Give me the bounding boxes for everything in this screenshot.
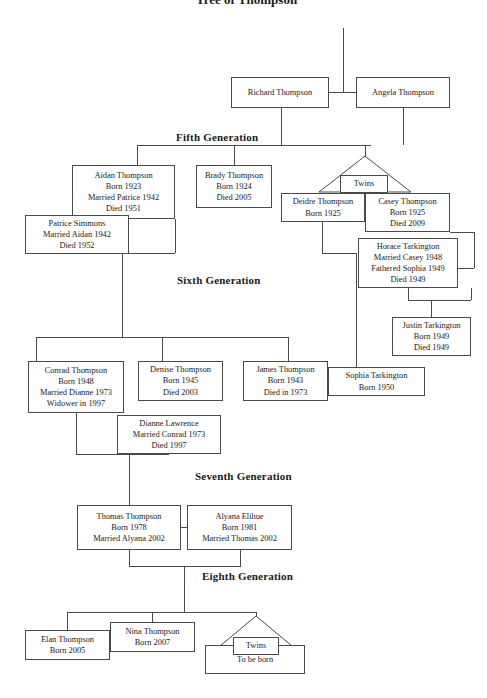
connector-james-branch: [288, 337, 289, 361]
person-detail: Born 1925: [390, 207, 426, 218]
person-detail: Born 2007: [135, 637, 171, 648]
connector-gen5-sibling-bus: [137, 145, 371, 146]
connector-top-stem: [343, 28, 344, 92]
connector-patrice-child-down: [122, 254, 123, 337]
person-name: Justin Tarkington: [402, 320, 460, 331]
person-node-nina-thompson[interactable]: Nina ThompsonBorn 2007: [110, 622, 195, 652]
person-node-justin-tarkington[interactable]: Justin TarkingtonBorn 1949Died 1949: [392, 317, 471, 356]
connector-conrad-down: [76, 413, 77, 455]
person-name: Horace Tarkington: [377, 241, 440, 252]
person-name: Twins: [246, 640, 266, 651]
person-node-twins-label-bottom[interactable]: Twins: [233, 637, 279, 655]
person-detail: Died 1949: [390, 274, 425, 285]
connector-deidre-down: [322, 222, 323, 254]
person-detail: Died 2009: [390, 218, 425, 229]
person-detail: Fathered Sophia 1949: [371, 263, 445, 274]
person-node-patrice-simmons[interactable]: Patrice SimmonsMarried Aidan 1942Died 19…: [25, 215, 129, 254]
person-name: Angela Thompson: [372, 87, 434, 98]
person-node-brady-thompson[interactable]: Brady ThompsonBorn 1924Died 2005: [196, 165, 272, 208]
connector-richard-angela-marriage: [329, 92, 356, 93]
connector-deidre-down-turn: [322, 253, 356, 254]
diagram-title: Tree of Thompson: [196, 0, 297, 8]
connector-justin-parent-right: [471, 288, 472, 300]
person-name: James Thompson: [256, 364, 314, 375]
person-name: Deidre Thompson: [293, 196, 354, 207]
connector-angela-down: [403, 108, 404, 145]
connector-gen8-sibling-bus: [67, 612, 256, 613]
person-detail: Born 1943: [268, 375, 304, 386]
connector-deidre-sophia-down: [356, 253, 357, 381]
person-node-alyana-elihue[interactable]: Alyana ElihueBorn 1981Married Thomas 200…: [187, 505, 292, 550]
person-detail: Born 1950: [359, 382, 395, 393]
person-name: Casey Thompson: [378, 196, 436, 207]
person-detail: Widower in 1997: [47, 398, 105, 409]
person-node-conrad-thompson[interactable]: Conrad ThompsonBorn 1948Married Dianne 1…: [28, 361, 124, 413]
generation-heading-eighth: Eighth Generation: [200, 570, 295, 582]
person-node-twins-label-top[interactable]: Twins: [340, 175, 388, 193]
person-name: Conrad Thompson: [45, 365, 107, 376]
person-name: To be born: [237, 654, 273, 665]
family-tree-diagram: Tree of Thompson Fifth GenerationSixth G…: [0, 0, 487, 698]
connector-richard-down: [281, 108, 282, 145]
person-detail: Married Aidan 1942: [43, 229, 111, 240]
person-detail: Born 1948: [58, 376, 94, 387]
connector-conrad-branch: [36, 337, 37, 361]
connector-aidan-child-down: [175, 219, 176, 253]
person-detail: Died 2005: [216, 192, 251, 203]
connector-casey-horace-join-low: [458, 268, 474, 269]
person-name: Nina Thompson: [125, 626, 179, 637]
person-node-dianne-lawrence[interactable]: Dianne LawrenceMarried Conrad 1973Died 1…: [117, 415, 221, 454]
person-detail: Married Dianne 1973: [40, 387, 112, 398]
connector-conrad-dianne-join: [76, 454, 169, 455]
connector-nina-branch: [152, 612, 153, 622]
person-name: Twins: [354, 178, 374, 189]
person-detail: Married Casey 1948: [374, 252, 442, 263]
person-detail: Born 1923: [106, 181, 142, 192]
person-node-james-thompson[interactable]: James ThompsonBorn 1943Died in 1973: [243, 361, 328, 401]
person-name: Thomas Thompson: [97, 511, 162, 522]
person-node-casey-thompson[interactable]: Casey ThompsonBorn 1925Died 2009: [365, 193, 450, 232]
person-node-thomas-thompson[interactable]: Thomas ThompsonBorn 1978Married Alyana 2…: [77, 505, 181, 550]
person-detail: Born 1949: [414, 331, 450, 342]
connector-elan-branch: [67, 612, 68, 630]
person-node-aidan-thompson[interactable]: Aidan ThompsonBorn 1923Married Patrice 1…: [72, 165, 175, 219]
person-node-angela-thompson[interactable]: Angela Thompson: [356, 77, 450, 108]
person-node-elan-thompson[interactable]: Elan ThompsonBorn 2005: [25, 630, 110, 660]
person-name: Aidan Thompson: [94, 170, 152, 181]
person-detail: Married Thomas 2002: [202, 533, 277, 544]
person-node-horace-tarkington[interactable]: Horace TarkingtonMarried Casey 1948Fathe…: [358, 238, 458, 288]
generation-heading-sixth: Sixth Generation: [175, 274, 263, 286]
person-detail: Born 2005: [50, 645, 86, 656]
person-node-sophia-tarkington[interactable]: Sophia TarkingtonBorn 1950: [328, 367, 425, 396]
generation-heading-seventh: Seventh Generation: [193, 470, 294, 482]
connector-aidan-patrice-join: [122, 253, 175, 254]
person-detail: Died in 1973: [264, 387, 308, 398]
person-name: Richard Thompson: [248, 87, 312, 98]
person-detail: Born 1945: [163, 375, 199, 386]
connector-aidan-stem: [137, 145, 138, 165]
person-detail: Married Conrad 1973: [133, 429, 206, 440]
person-node-denise-thompson[interactable]: Denise ThompsonBorn 1945Died 2003: [138, 361, 223, 401]
connector-casey-horace-join: [450, 232, 474, 233]
person-detail: Died 1951: [106, 203, 141, 214]
person-node-deidre-thompson[interactable]: Deidre ThompsonBorn 1925: [281, 193, 365, 222]
person-detail: Born 1981: [222, 522, 258, 533]
person-detail: Born 1978: [111, 522, 147, 533]
connector-alyana-down: [240, 550, 241, 567]
person-name: Sophia Tarkington: [346, 370, 408, 381]
person-name: Patrice Simmons: [49, 218, 106, 229]
person-name: Denise Thompson: [150, 364, 211, 375]
connector-gen7-stem: [129, 454, 130, 505]
person-detail: Married Patrice 1942: [88, 192, 159, 203]
person-detail: Born 1925: [305, 208, 341, 219]
person-detail: Died 1997: [151, 440, 186, 451]
connector-casey-right-down: [474, 232, 475, 268]
person-name: Dianne Lawrence: [139, 418, 198, 429]
connector-justin-stem: [431, 300, 432, 317]
connector-denise-branch: [162, 337, 163, 361]
person-detail: Died 2003: [163, 387, 198, 398]
person-node-richard-thompson[interactable]: Richard Thompson: [231, 77, 329, 108]
person-detail: Born 1924: [216, 181, 252, 192]
person-name: Alyana Elihue: [215, 511, 263, 522]
connector-horace-down: [408, 288, 409, 300]
